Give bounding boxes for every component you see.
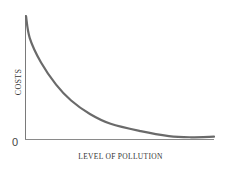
origin-label: 0 xyxy=(12,136,18,148)
y-axis-label: COSTS xyxy=(13,67,25,97)
cost-curve xyxy=(26,16,214,137)
chart-plot xyxy=(0,0,225,171)
x-axis-label: LEVEL OF POLLUTION xyxy=(0,152,225,161)
